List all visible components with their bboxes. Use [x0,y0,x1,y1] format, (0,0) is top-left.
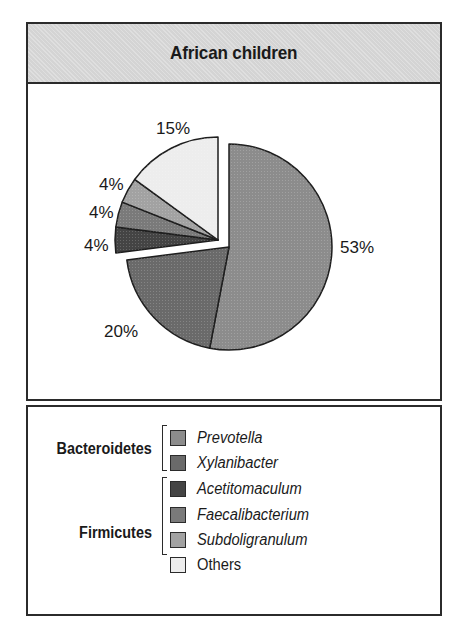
pie-label-faecalibacterium: 4% [89,203,114,222]
legend-item-prevotella: Prevotella [170,427,268,449]
legend-item-faecalibacterium: Faecalibacterium [170,504,319,526]
pie-label-prevotella: 53% [340,238,374,257]
pie-label-others: 15% [156,119,190,138]
legend-group-bacteroidetes: Bacteroidetes [57,440,152,458]
swatch-faecalibacterium [170,507,186,523]
legend-panel: Bacteroidetes Firmicutes Prevotella Xyla… [26,405,442,616]
swatch-acetitomaculum [170,481,186,497]
bracket-firmicutes [162,477,167,555]
swatch-others [170,557,186,573]
swatch-prevotella [170,430,186,446]
bracket-bacteroidetes [162,425,167,471]
swatch-xylanibacter [170,455,186,471]
legend-item-xylanibacter: Xylanibacter [170,452,285,474]
legend-item-acetitomaculum: Acetitomaculum [170,478,311,500]
pie-slices [115,137,332,350]
legend-item-others: Others [170,554,245,576]
legend-item-subdoligranulum: Subdoligranulum [170,529,317,551]
pie-label-acetitomaculum: 4% [84,236,109,255]
legend-group-firmicutes: Firmicutes [79,524,152,542]
pie-label-subdoligranulum: 4% [99,175,124,194]
swatch-subdoligranulum [170,532,186,548]
pie-label-xylanibacter: 20% [104,322,138,341]
